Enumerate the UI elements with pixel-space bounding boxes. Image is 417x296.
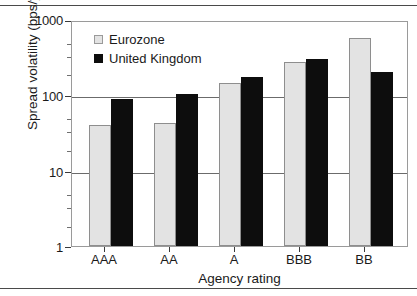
bar-uk-A: [241, 77, 263, 246]
x-axis-title: Agency rating: [71, 271, 408, 286]
x-category-label-BB: BB: [331, 252, 397, 267]
bar-eurozone-A: [219, 83, 241, 246]
bar-eurozone-AA: [154, 123, 176, 246]
x-category-label-AAA: AAA: [71, 252, 137, 267]
x-category-label-AA: AA: [136, 252, 202, 267]
chart-legend: Eurozone United Kingdom: [94, 30, 202, 68]
bar-uk-BB: [371, 72, 393, 246]
y-tick-label-1: 1: [23, 241, 63, 254]
chart-figure: Spread volatility (bps/yr) 1000 100 10 1…: [0, 0, 417, 296]
y-tick-label-1000: 1000: [23, 14, 63, 27]
bar-uk-AA: [176, 94, 198, 246]
x-category-label-BBB: BBB: [266, 252, 332, 267]
legend-swatch-eurozone: [94, 35, 103, 44]
bar-uk-AAA: [111, 99, 133, 246]
top-rule: [0, 5, 417, 6]
plot-area: Eurozone United Kingdom: [71, 21, 408, 247]
bar-eurozone-BBB: [284, 62, 306, 246]
legend-label-united-kingdom: United Kingdom: [109, 51, 202, 66]
bar-uk-BBB: [306, 59, 328, 246]
y-tick-label-10: 10: [23, 166, 63, 179]
legend-label-eurozone: Eurozone: [109, 32, 165, 47]
legend-item-united-kingdom: United Kingdom: [94, 49, 202, 68]
bar-eurozone-AAA: [89, 125, 111, 246]
bar-eurozone-BB: [349, 38, 371, 246]
y-tick-label-100: 100: [23, 90, 63, 103]
legend-item-eurozone: Eurozone: [94, 30, 202, 49]
legend-swatch-united-kingdom: [94, 54, 103, 63]
x-category-label-A: A: [201, 252, 267, 267]
y-tick-1: [65, 247, 71, 248]
bottom-rule: [0, 288, 417, 289]
